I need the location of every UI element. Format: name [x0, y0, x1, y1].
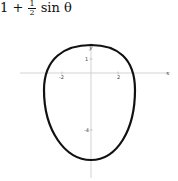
y-tick-label-bottom: -4: [84, 127, 89, 133]
plot-area: -2 2 1 -4 y x: [0, 0, 178, 181]
x-tick-label-left: -2: [59, 74, 64, 80]
y-tick-label-top: 1: [85, 56, 88, 62]
x-tick-label-right: 2: [117, 74, 120, 80]
x-axis-label: x: [166, 69, 170, 76]
polar-curve: [44, 45, 135, 160]
